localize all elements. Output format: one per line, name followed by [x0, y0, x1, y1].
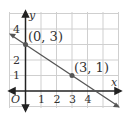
coordinate-plane: (0, 3) (3, 1) y x O 1 2 3 4 1 2 4	[0, 0, 127, 116]
x-tick-4: 4	[85, 93, 92, 106]
y-tick-2: 2	[13, 54, 20, 67]
y-axis-label: y	[28, 9, 36, 22]
y-tick-1: 1	[13, 69, 20, 82]
x-axis-label: x	[111, 76, 118, 89]
y-tick-4: 4	[13, 23, 20, 36]
point-label-3-1: (3, 1)	[74, 60, 109, 75]
x-tick-2: 2	[54, 93, 61, 106]
y-axis	[23, 11, 29, 111]
origin-label: O	[11, 93, 20, 106]
x-tick-3: 3	[69, 93, 76, 106]
point-label-0-3: (0, 3)	[28, 29, 63, 44]
x-tick-1: 1	[38, 93, 45, 106]
